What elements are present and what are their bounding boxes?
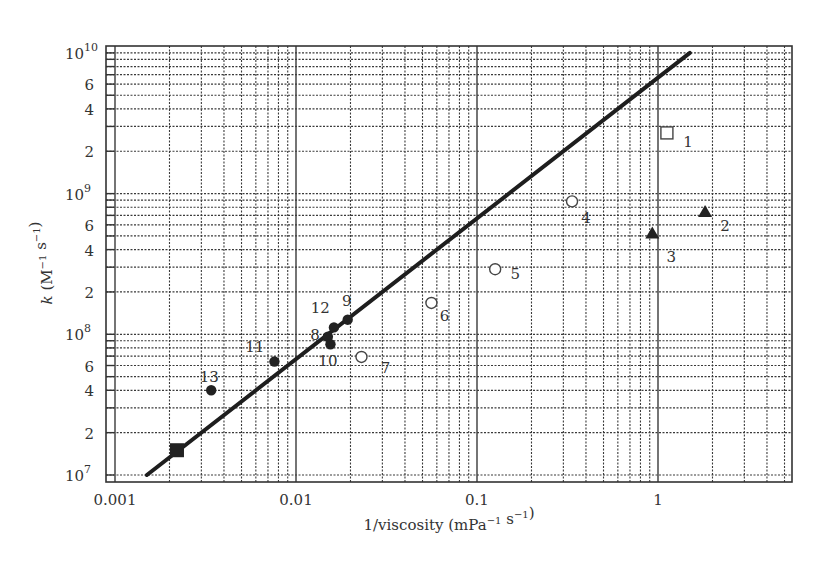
point-label: 6 [440, 307, 450, 325]
y-tick-label: 6 [84, 76, 94, 94]
y-tick-exponent: 10 [84, 41, 98, 54]
y-tick-label: 2 [84, 143, 94, 161]
data-point: 6 [426, 297, 449, 325]
triangle-filled-marker-icon [645, 227, 659, 239]
x-tick-label: 0.01 [279, 491, 312, 509]
point-label: 7 [381, 359, 391, 377]
x-axis-ticks: 0.0010.010.11 [94, 491, 663, 509]
point-label: 1 [683, 133, 693, 151]
fit-line [147, 53, 690, 475]
data-point: 9 [342, 292, 353, 325]
y-tick-label: 2 [84, 425, 94, 443]
y-tick-label: 10 [65, 467, 84, 485]
log-log-scatter-chart: 0.0010.010.11 1072461082461092461010 131… [0, 0, 821, 569]
point-label: 11 [245, 338, 264, 356]
grid-lines [106, 46, 792, 482]
y-tick-label: 4 [84, 101, 94, 119]
point-label: 13 [200, 368, 219, 386]
y-tick-label: 6 [84, 217, 94, 235]
y-tick-exponent: 7 [84, 463, 91, 476]
y-tick-label: 10 [65, 326, 84, 344]
circle-open-marker-icon [490, 264, 501, 275]
y-tick-exponent: 8 [84, 322, 91, 335]
y-axis-ticks: 1072461082461092461010 [65, 41, 98, 485]
y-tick-label: 6 [84, 358, 94, 376]
circle-filled-marker-icon [342, 314, 352, 324]
data-point [170, 443, 184, 457]
data-point: 7 [356, 351, 390, 377]
circle-open-marker-icon [356, 351, 367, 362]
circle-filled-marker-icon [325, 339, 335, 349]
y-tick-label: 4 [84, 242, 94, 260]
data-point: 10 [318, 339, 337, 370]
point-label: 3 [667, 248, 677, 266]
point-label: 2 [720, 217, 730, 235]
x-tick-label: 0.001 [94, 491, 137, 509]
data-point: 2 [698, 205, 730, 235]
square-filled-marker-icon [170, 443, 184, 457]
point-label: 9 [342, 292, 352, 310]
data-point: 5 [490, 264, 520, 284]
square-open-marker-icon [661, 127, 673, 139]
y-tick-label: 10 [65, 186, 84, 204]
x-axis-title: 1/viscosity (mPa−1 s−1) [363, 504, 534, 534]
y-tick-exponent: 9 [84, 182, 91, 195]
point-label: 5 [510, 265, 520, 283]
data-point: 13 [200, 368, 219, 395]
x-tick-label: 0.1 [465, 491, 489, 509]
point-label: 4 [581, 209, 591, 227]
circle-open-marker-icon [426, 297, 437, 308]
y-tick-label: 2 [84, 284, 94, 302]
data-point: 1 [661, 127, 693, 151]
circle-filled-marker-icon [269, 356, 279, 366]
x-tick-label: 1 [653, 491, 663, 509]
y-tick-label: 4 [84, 382, 94, 400]
point-label: 12 [311, 299, 330, 317]
y-tick-label: 10 [65, 45, 84, 63]
y-axis-title: k (M−1 s−1) [26, 222, 56, 305]
circle-open-marker-icon [567, 196, 578, 207]
circle-filled-marker-icon [329, 322, 339, 332]
point-label: 10 [318, 352, 337, 370]
point-label: 8 [310, 326, 320, 344]
circle-filled-marker-icon [206, 385, 216, 395]
data-point: 11 [245, 338, 279, 367]
